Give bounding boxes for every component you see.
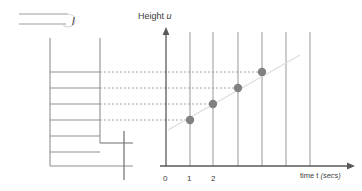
- chart-axes: [160, 27, 355, 169]
- x-axis-label-text: time t: [300, 171, 318, 180]
- x-axis-label: time t (secs): [300, 172, 341, 180]
- x-axis-label-unit: (secs): [320, 171, 340, 180]
- x-tick-label: 2: [211, 174, 215, 183]
- figure-canvas: l Height u time t (secs) 0 1 2: [0, 0, 362, 191]
- diagram-svg: [0, 0, 362, 191]
- water-level-lines: [50, 72, 100, 152]
- tap-label: l: [72, 16, 74, 27]
- data-point: [234, 84, 242, 92]
- y-axis-label-variable: u: [167, 11, 172, 21]
- tank-outlet-icon: [100, 131, 133, 180]
- data-point: [258, 68, 266, 76]
- data-point: [209, 100, 217, 108]
- x-tick-label: 1: [187, 174, 191, 183]
- data-points: [186, 68, 266, 124]
- y-axis-label-text: Height: [138, 11, 164, 21]
- y-axis-label: Height u: [138, 12, 172, 21]
- data-point: [186, 116, 194, 124]
- x-tick-label: 0: [163, 174, 167, 183]
- water-tank-icon: [50, 38, 133, 180]
- faucet-spout-icon: [19, 14, 75, 27]
- chart-gridlines: [190, 32, 310, 166]
